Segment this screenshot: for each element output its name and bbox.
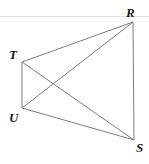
- side-r-s: [133, 22, 134, 140]
- vertex-label-r: R: [126, 6, 135, 19]
- vertex-label-u: U: [9, 111, 18, 124]
- quadrilateral-diagram-svg: [0, 0, 149, 164]
- side-s-u: [22, 108, 134, 140]
- side-t-r: [22, 22, 133, 62]
- vertex-label-s: S: [136, 141, 143, 154]
- geometry-figure: T R U S: [0, 0, 149, 164]
- diagonal-t-s: [22, 62, 134, 140]
- vertex-label-t: T: [9, 48, 17, 61]
- diagonal-u-r: [22, 22, 133, 108]
